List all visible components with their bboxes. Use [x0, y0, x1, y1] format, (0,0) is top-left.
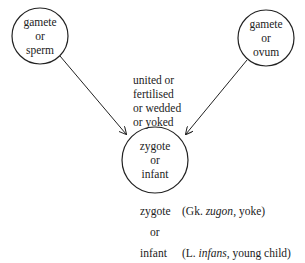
node-ovum: gamete or ovum [236, 17, 296, 59]
etymology-connector: or [140, 225, 291, 246]
etymology-text: , young child) [227, 247, 291, 259]
node-text: sperm [10, 43, 70, 57]
etymology-text: (Gk. [182, 205, 206, 217]
etymology-word: infant [140, 246, 182, 260]
etymology-text: , yoke) [233, 205, 265, 217]
node-text: gamete [10, 15, 70, 29]
etymology-root: infans [199, 247, 227, 259]
node-zygote: zygote or infant [125, 139, 185, 181]
node-text: gamete [236, 17, 296, 31]
etymology-word: zygote [140, 204, 182, 218]
edge-label: united or fertilised or wedded or yoked [133, 73, 181, 129]
node-text: zygote [125, 139, 185, 153]
edge-label-line: or wedded [133, 101, 181, 115]
etymology-zygote: zygote(Gk. zugon, yoke) [140, 204, 291, 225]
etymology: zygote(Gk. zugon, yoke) or infant(L. inf… [140, 204, 291, 263]
node-sperm: gamete or sperm [10, 15, 70, 57]
node-text: or [125, 153, 185, 167]
edge-label-line: fertilised [133, 87, 181, 101]
etymology-text: (L. [182, 247, 199, 259]
node-text: or [10, 29, 70, 43]
node-text: ovum [236, 45, 296, 59]
etymology-infant: infant(L. infans, young child) [140, 246, 291, 263]
etymology-root: zugon [206, 205, 233, 217]
arrow-sperm-to-zygote [60, 56, 126, 134]
edge-label-line: united or [133, 73, 181, 87]
node-text: infant [125, 167, 185, 181]
edge-label-line: or yoked [133, 115, 181, 129]
arrow-ovum-to-zygote [186, 60, 247, 134]
node-text: or [236, 31, 296, 45]
